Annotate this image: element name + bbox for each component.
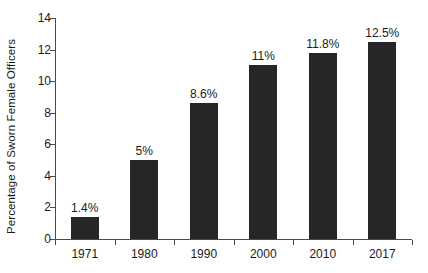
bar [249,65,277,239]
y-axis-tick-label: 2 [44,199,51,215]
x-axis-tick-mark [174,240,175,245]
x-axis-tick-label: 2010 [293,246,353,262]
x-axis-tick-mark [293,240,294,245]
x-axis-tick-mark [412,240,413,245]
bar-value-label: 1.4% [55,201,115,215]
x-axis-tick-mark [115,240,116,245]
x-axis-tick-label: 1980 [114,246,174,262]
bar [190,103,218,239]
bar-value-label: 12.5% [352,26,412,40]
bar-chart: Percentage of Sworn Female Officers 0246… [0,0,428,273]
x-axis-tick-mark [55,240,56,245]
y-axis-title: Percentage of Sworn Female Officers [0,0,22,273]
x-axis-tick-mark [234,240,235,245]
x-axis-tick-label: 1990 [174,246,234,262]
y-axis-tick-label: 10 [38,73,51,89]
bar-value-label: 11.8% [293,37,353,51]
x-axis-tick-label: 2017 [352,246,412,262]
x-axis-tick-label: 2000 [233,246,293,262]
x-axis-tick-label: 1971 [55,246,115,262]
bar-value-label: 11% [233,49,293,63]
bar [130,160,158,239]
bar-value-label: 5% [114,144,174,158]
y-axis-tick-label: 14 [38,10,51,26]
y-axis-tick-label: 4 [44,168,51,184]
x-axis-tick-mark [353,240,354,245]
bar-value-label: 8.6% [174,87,234,101]
y-axis-tick-label: 6 [44,136,51,152]
bar [368,42,396,239]
bar [309,53,337,239]
y-axis-tick-label: 0 [44,231,51,247]
plot-area: 02468101214 1.4%5%8.6%11%11.8%12.5% 1971… [55,18,412,240]
y-axis-tick-label: 12 [38,42,51,58]
bar [71,217,99,239]
y-axis-tick-label: 8 [44,105,51,121]
